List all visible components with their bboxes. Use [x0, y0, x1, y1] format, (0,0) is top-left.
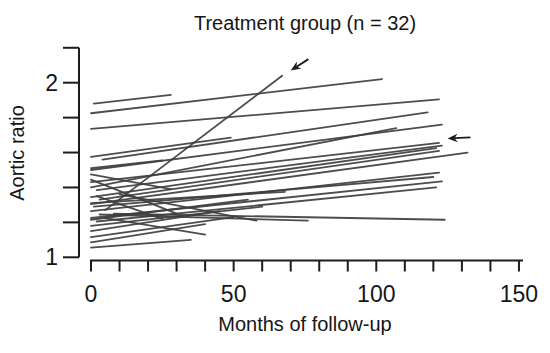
x-tick-label: 100 — [357, 281, 395, 307]
arrow-shaft — [455, 137, 471, 138]
patient-line — [91, 160, 162, 168]
patient-lines — [91, 76, 468, 248]
y-tick-label: 1 — [45, 244, 58, 270]
plot-canvas: Treatment group (n = 32) Aortic ratio Mo… — [0, 0, 550, 353]
x-tick-label: 150 — [500, 281, 538, 307]
patient-line — [94, 95, 171, 104]
patient-line — [94, 177, 434, 207]
treatment-group-chart: Treatment group (n = 32) Aortic ratio Mo… — [0, 0, 550, 353]
y-axis-label: Aortic ratio — [6, 105, 28, 201]
x-tick-label: 0 — [85, 281, 98, 307]
patient-line — [91, 148, 436, 197]
x-axis-label: Months of follow-up — [218, 313, 391, 335]
arrow-shaft — [297, 59, 309, 67]
arrow-annotations — [291, 59, 471, 142]
chart-title: Treatment group (n = 32) — [194, 12, 416, 34]
arrow-head — [291, 62, 302, 71]
x-tick-label: 50 — [221, 281, 247, 307]
y-tick-label: 2 — [45, 70, 58, 96]
patient-line — [91, 99, 439, 129]
patient-line — [91, 240, 191, 248]
patient-line — [102, 112, 427, 159]
